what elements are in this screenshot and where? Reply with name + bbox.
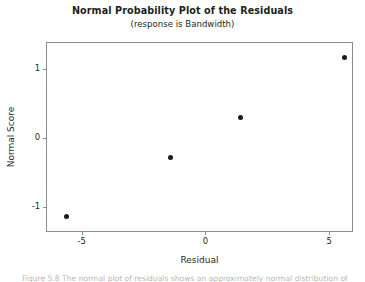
chart-title: Normal Probability Plot of the Residuals: [0, 4, 365, 17]
figure-caption: Figure 5.8 The normal plot of residuals …: [22, 274, 347, 282]
y-axis-tick: 1: [43, 69, 47, 70]
data-point: [64, 214, 69, 219]
plot-area: -101-505: [47, 43, 352, 231]
x-axis-tick: 0: [205, 231, 206, 235]
data-point: [342, 55, 347, 60]
x-axis-tick-label: -5: [77, 236, 85, 246]
x-axis-tick: 5: [329, 231, 330, 235]
data-point: [238, 115, 243, 120]
y-axis-tick-label: 0: [35, 132, 40, 142]
y-axis-tick: -1: [43, 207, 47, 208]
x-axis-title: Residual: [46, 255, 353, 265]
normal-probability-plot-figure: Normal Probability Plot of the Residuals…: [0, 0, 365, 282]
y-axis-title: Normal Score: [4, 42, 18, 232]
x-axis-tick-label: 5: [327, 236, 332, 246]
x-axis-tick: -5: [82, 231, 83, 235]
y-axis-tick-label: 1: [35, 63, 40, 73]
chart-subtitle: (response is Bandwidth): [0, 18, 365, 30]
y-axis-tick: 0: [43, 138, 47, 139]
data-point: [168, 155, 173, 160]
plot-frame: -101-505: [46, 42, 353, 232]
x-axis-tick-label: 0: [203, 236, 208, 246]
y-axis-tick-label: -1: [32, 201, 40, 211]
y-axis-title-text: Normal Score: [6, 107, 16, 168]
chart-title-block: Normal Probability Plot of the Residuals…: [0, 4, 365, 30]
